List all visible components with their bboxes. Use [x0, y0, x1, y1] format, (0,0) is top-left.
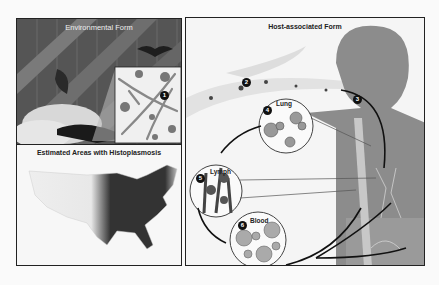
step-5-marker: 5 [196, 174, 205, 183]
us-map-illustration [17, 145, 182, 266]
histoplasmosis-map-panel: Estimated Areas with Histoplasmosis [16, 144, 182, 266]
host-infection-illustration [186, 18, 425, 266]
host-form-title: Host-associated Form [186, 23, 424, 30]
host-associated-form-panel: Host-associated Form 2 3 4 Lung 5 Lymph … [185, 17, 425, 266]
attic-scene-illustration [17, 19, 182, 145]
step-4-marker: 4 [263, 106, 272, 115]
step-1-marker: 1 [160, 91, 169, 100]
step-3-marker: 3 [353, 95, 362, 104]
blood-label: Blood [250, 217, 268, 224]
environmental-form-title: Environmental Form [17, 23, 181, 32]
lung-label: Lung [276, 100, 292, 107]
environmental-form-panel: Environmental Form 1 [16, 18, 182, 145]
step-6-marker: 6 [238, 221, 247, 230]
lymph-label: Lymph [210, 168, 231, 175]
step-2-marker: 2 [242, 78, 251, 87]
